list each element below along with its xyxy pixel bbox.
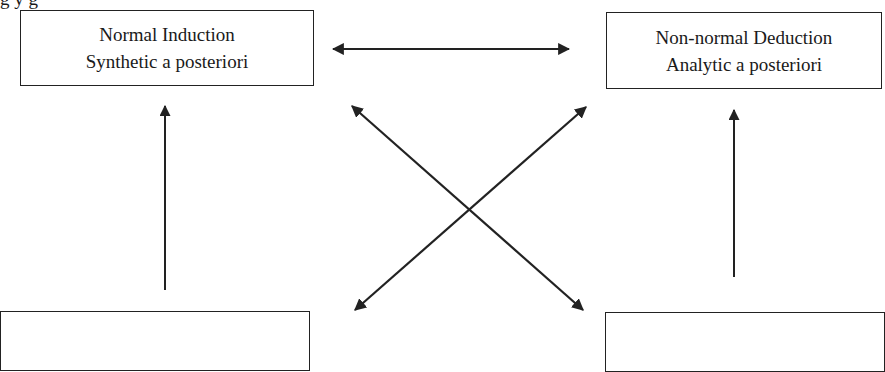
box-subtitle: Synthetic a posteriori bbox=[86, 48, 249, 75]
box-bottom-left bbox=[0, 311, 310, 371]
box-bottom-right bbox=[605, 312, 885, 372]
box-title: Non-normal Deduction bbox=[656, 24, 833, 51]
box-non-normal-deduction: Non-normal Deduction Analytic a posterio… bbox=[606, 12, 882, 89]
box-normal-induction: Normal Induction Synthetic a posteriori bbox=[20, 10, 314, 86]
bidirectional-arrow-diagonal-bl-tr bbox=[355, 107, 586, 310]
box-title: Normal Induction bbox=[99, 21, 235, 48]
bidirectional-arrow-diagonal-tl-br bbox=[352, 106, 583, 310]
box-subtitle: Analytic a posteriori bbox=[666, 51, 822, 78]
cut-off-caption: g y g bbox=[0, 0, 38, 10]
